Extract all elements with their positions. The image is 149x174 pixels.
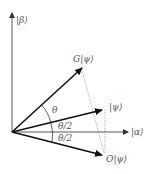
half-theta-upper-label: θ/2 xyxy=(58,121,72,131)
g-psi-label: G|ψ⟩ xyxy=(73,54,94,65)
half-theta-lower-label: θ/2 xyxy=(58,133,72,143)
theta-label: θ xyxy=(52,105,58,115)
o-psi-label: O|ψ⟩ xyxy=(106,154,127,165)
alpha-axis-label: |α⟩ xyxy=(131,127,144,138)
o-psi-vector xyxy=(12,132,102,155)
grover-diagram: |β⟩ |α⟩ G|ψ⟩ |ψ⟩ O|ψ⟩ θ θ/2 θ/2 xyxy=(0,0,149,174)
theta-arc xyxy=(42,105,51,122)
beta-axis-label: |β⟩ xyxy=(16,15,28,26)
psi-label: |ψ⟩ xyxy=(109,102,123,113)
